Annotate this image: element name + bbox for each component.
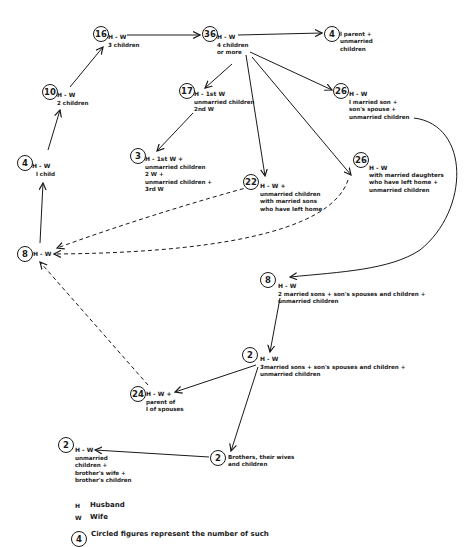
node-label: H - W + [260,182,285,189]
node-description: unmarried children with married sons who… [260,191,322,213]
node-description: l parent + unmarried children [340,31,373,53]
arrow-2mid-to-2bro [231,367,258,451]
node-description: l married son + son's spouse + unmarried… [349,99,409,121]
count-circle: 2 [58,437,74,453]
arrow-36-to-22 [246,55,265,176]
node-label: H - 1st W + [145,155,183,162]
arrow-36-to-26b [252,57,351,175]
node-label: H - W [108,33,126,40]
node-label: H - W [369,164,387,171]
count-circle: 22 [243,174,259,190]
node-label: H - W [75,446,93,453]
count-circle: 4 [17,155,33,171]
dashed-arrow-24-to-8left [40,262,148,385]
node-description: Brothers, their wives and children [228,454,294,469]
node-description: 2 married sons + son's spouses and child… [278,291,425,306]
arrow-36-to-26a [250,52,332,90]
arrow-8-to-2mid [270,298,280,352]
node-description: 3 children [108,42,140,49]
count-circle: 24 [130,386,146,402]
legend-circle-example: 4 [71,531,87,547]
node-description: l child [36,171,55,178]
legend-value-husband: Husband [90,501,125,509]
node-label: H - W [260,355,278,362]
count-circle: 26 [333,83,349,99]
legend-value-wife: Wife [90,513,108,521]
arrow-2mid-to-24 [175,365,256,392]
node-label: H - W [278,282,296,289]
count-circle: 3 [130,148,146,164]
arrow-36-to-4top [238,33,322,35]
count-circle: 4 [324,26,340,42]
count-circle: 26 [353,152,369,168]
node-description: with married daughters who have left hom… [369,172,444,194]
count-circle: 2 [242,347,258,363]
count-circle: 8 [260,272,276,288]
legend-key-w: W [75,514,82,521]
count-circle: 16 [93,26,109,42]
legend-key-h: H [75,502,80,509]
count-circle: 10 [42,84,58,100]
node-description: 3married sons + son's spouses and childr… [260,364,405,379]
node-label: H - W [57,91,75,98]
node-label: H - W [349,90,367,97]
count-circle: 8 [17,246,33,262]
node-label: H - W + [146,390,171,397]
dashed-arrow-22-to-8left [57,185,257,248]
arrow-10-to-16 [70,47,103,87]
arrow-36-to-17 [205,64,232,88]
node-description: 2 children [57,100,89,107]
node-description: unmarried children + brother's wife + br… [75,455,131,485]
node-label: H - W [33,250,51,257]
node-label: H - 1st W [194,90,225,97]
count-circle: 36 [202,26,218,42]
node-label: H - W [217,33,235,40]
legend-circle-note: Circled figures represent the number of … [91,530,269,538]
arrow-4-to-10 [48,110,60,150]
arrow-17-to-3 [157,113,193,151]
node-description: unmarried children 2 W + unmarried child… [145,164,212,194]
count-circle: 2 [210,450,226,466]
arrow-8left-to-4 [40,183,43,243]
node-label: H - W [32,162,50,169]
node-description: parent of l of spouses [146,399,184,414]
count-circle: 17 [179,83,195,99]
node-description: 4 children or more [217,42,249,57]
node-description: unmarried children 2nd W [194,99,254,114]
